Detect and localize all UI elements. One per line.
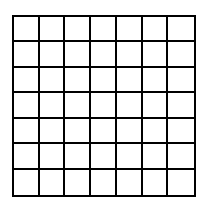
grid-cell [117,42,143,67]
grid-cell [65,93,91,118]
grid-cell [143,17,169,42]
grid-cell [168,68,194,93]
grid-cell [14,17,40,42]
grid-cell [40,17,66,42]
grid-cell [14,68,40,93]
grid-cell [91,93,117,118]
grid-cell [40,119,66,144]
grid-cell [91,42,117,67]
grid-cell [168,119,194,144]
grid-cell [65,42,91,67]
grid-cell [168,42,194,67]
grid-cell [117,93,143,118]
grid-cell [143,144,169,169]
grid-cell [143,119,169,144]
grid-cell [91,68,117,93]
grid-cell [65,119,91,144]
grid-cell [65,68,91,93]
grid-cell [40,144,66,169]
grid-cell [40,170,66,195]
grid-cell [14,144,40,169]
grid-cell [168,144,194,169]
grid-cell [117,68,143,93]
grid-cell [117,170,143,195]
grid-cell [117,119,143,144]
grid-cell [14,170,40,195]
grid-cell [117,144,143,169]
grid-cell [40,68,66,93]
grid-cell [40,42,66,67]
grid-cell [14,42,40,67]
grid-cell [117,17,143,42]
grid-cell [91,144,117,169]
square-grid [12,15,196,197]
grid-cell [91,119,117,144]
grid-cell [91,170,117,195]
grid-cell [65,17,91,42]
grid-cell [143,170,169,195]
grid-cell [143,93,169,118]
grid-cell [168,170,194,195]
grid-cell [168,93,194,118]
grid-cell [40,93,66,118]
grid-cell [65,170,91,195]
grid-cell [143,68,169,93]
grid-cell [14,119,40,144]
grid-cell [143,42,169,67]
grid-cell [65,144,91,169]
grid-cell [91,17,117,42]
grid-cell [168,17,194,42]
grid-cell [14,93,40,118]
